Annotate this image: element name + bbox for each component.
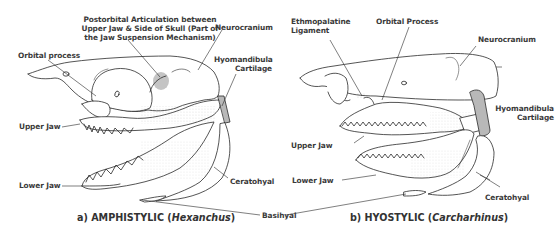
hyomandibula-a — [218, 96, 230, 123]
hyomandibula-b-line-2: Cartilage — [490, 113, 554, 122]
postorbital-line-2: Upper Jaw & Side of Skull (Part of — [60, 24, 240, 33]
postorbital-articulation-patch — [153, 72, 169, 90]
label-upper-jaw-b: Upper Jaw — [291, 141, 332, 150]
caption-a-suffix: ) — [231, 212, 235, 223]
caption-a-genus: Hexanchus — [172, 212, 231, 223]
hyomandibula-b-line-1: Hyomandibula — [490, 104, 554, 113]
postorbital-line-1: Postorbital Articulation between — [60, 15, 240, 24]
caption-b-suffix: ) — [504, 212, 508, 223]
hyomandibula-a-line-1: Hyomandibula — [214, 55, 272, 64]
basihyal-b — [404, 191, 426, 197]
label-neurocranium-b: Neurocranium — [478, 35, 536, 44]
label-hyomandibula-a: Hyomandibula Cartilage — [214, 55, 272, 73]
caption-b-prefix: b) HYOSTYLIC ( — [350, 212, 432, 223]
hyomandibula-a-line-2: Cartilage — [214, 64, 272, 73]
postorbital-line-3: the Jaw Suspension Mechanism) — [60, 33, 240, 42]
hyostylic-skull — [300, 53, 498, 196]
label-upper-jaw-a: Upper Jaw — [19, 122, 60, 131]
label-orbital-process-b: Orbital Process — [376, 17, 438, 26]
ethmopalatine-line-2: Ligament — [291, 26, 350, 35]
label-hyomandibula-b: Hyomandibula Cartilage — [490, 104, 554, 122]
label-orbital-process-a: Orbital process — [18, 51, 80, 60]
caption-amphistylic: a) AMPHISTYLIC (Hexanchus) — [77, 212, 235, 223]
label-ceratohyal-b: Ceratohyal — [485, 193, 529, 202]
label-ethmopalatine-ligament: Ethmopalatine Ligament — [291, 17, 350, 35]
ethmopalatine-line-1: Ethmopalatine — [291, 17, 350, 26]
label-neurocranium-a: Neurocranium — [215, 23, 273, 32]
label-lower-jaw-b: Lower Jaw — [292, 176, 334, 185]
label-postorbital-articulation: Postorbital Articulation between Upper J… — [60, 15, 240, 42]
label-basihyal: Basihyal — [262, 211, 296, 220]
caption-b-genus: Carcharhinus — [432, 212, 503, 223]
caption-a-prefix: a) AMPHISTYLIC ( — [77, 212, 172, 223]
caption-hyostylic: b) HYOSTYLIC (Carcharhinus) — [350, 212, 508, 223]
label-lower-jaw-a: Lower Jaw — [19, 181, 61, 190]
label-ceratohyal-a: Ceratohyal — [230, 177, 274, 186]
